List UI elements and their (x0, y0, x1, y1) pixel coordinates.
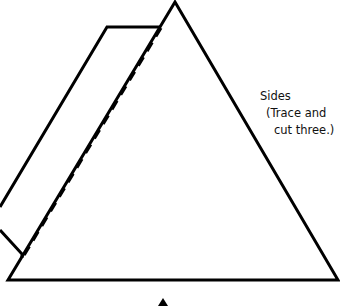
pyramid-side-template (0, 0, 340, 306)
glue-tab-bottom (0, 230, 22, 258)
side-triangle (8, 2, 338, 280)
glue-tab-outline (0, 27, 161, 207)
next-template-tip (158, 298, 168, 306)
instruction-line-1: (Trace and (266, 105, 326, 121)
sides-title: Sides (260, 88, 291, 104)
instruction-line-2: cut three.) (274, 122, 334, 138)
